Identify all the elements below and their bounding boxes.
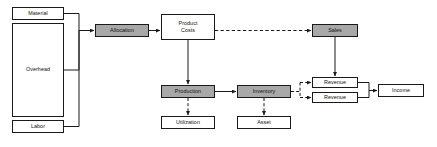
- node-revenue-bottom-label: Revenue: [324, 94, 346, 101]
- edge-inventory-to-revenues: [291, 83, 311, 98]
- edge-revenues-to-income: [358, 83, 377, 98]
- edge-layer: [0, 0, 437, 147]
- node-product-costs-label: Product Costs: [179, 20, 198, 35]
- process-flow-diagram: Material Overhead Labor Allocation Produ…: [0, 0, 437, 147]
- node-inventory-label: Inventory: [253, 88, 276, 95]
- node-production-label: Production: [175, 88, 201, 95]
- node-overhead-label: Overhead: [26, 66, 50, 73]
- node-labor-label: Labor: [31, 123, 45, 130]
- node-revenue-top-label: Revenue: [324, 79, 346, 86]
- node-sales-label: Sales: [328, 27, 342, 34]
- node-revenue-top[interactable]: Revenue: [312, 77, 358, 88]
- node-asset-label: Asset: [257, 119, 271, 126]
- node-overhead[interactable]: Overhead: [12, 23, 64, 117]
- node-labor[interactable]: Labor: [12, 120, 64, 133]
- node-material-label: Material: [28, 10, 48, 17]
- node-income-label: Income: [392, 87, 410, 94]
- node-material[interactable]: Material: [12, 7, 64, 20]
- node-asset[interactable]: Asset: [237, 116, 291, 129]
- node-product-costs[interactable]: Product Costs: [161, 14, 215, 40]
- edge-material-to-allocation: [64, 14, 79, 31]
- edge-overhead-to-allocation: [64, 31, 79, 71]
- node-utilization[interactable]: Utilization: [161, 116, 215, 129]
- node-allocation-label: Allocation: [110, 27, 134, 34]
- node-sales[interactable]: Sales: [312, 24, 358, 37]
- node-revenue-bottom[interactable]: Revenue: [312, 92, 358, 103]
- node-utilization-label: Utilization: [176, 119, 200, 126]
- edge-labor-to-allocation: [64, 31, 79, 127]
- node-allocation[interactable]: Allocation: [95, 24, 149, 37]
- node-inventory[interactable]: Inventory: [237, 85, 291, 98]
- node-income[interactable]: Income: [378, 84, 424, 97]
- node-production[interactable]: Production: [161, 85, 215, 98]
